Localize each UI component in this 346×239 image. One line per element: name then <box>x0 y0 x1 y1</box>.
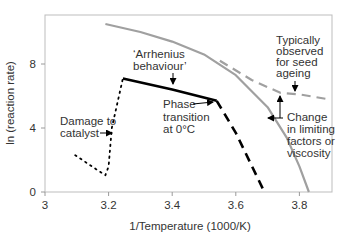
svg-text:Damage tocatalyst: Damage tocatalyst <box>60 115 116 139</box>
y-tick-label: 0 <box>30 186 36 198</box>
x-axis-label: 1/Temperature (1000/K) <box>129 220 251 232</box>
y-tick-label: 4 <box>30 122 37 134</box>
svg-text:Changein limitingfactors orvis: Changein limitingfactors orviscosity <box>287 111 335 159</box>
svg-text:‘Arrheniusbehaviour’: ‘Arrheniusbehaviour’ <box>133 48 187 72</box>
x-tick-label: 3.2 <box>101 199 117 211</box>
series-below-phase-transition <box>217 101 265 192</box>
y-tick-label: 8 <box>30 58 36 70</box>
y-axis-label: ln (reaction rate) <box>4 61 16 145</box>
annotation-phase-transition: Phasetransitionat 0°C <box>163 98 213 135</box>
x-axis-ticks: 33.23.43.63.8 <box>42 192 308 211</box>
annotation-seed-ageing: Typicallyobservedfor seedageing <box>276 34 323 91</box>
x-tick-label: 3 <box>42 199 48 211</box>
annotation-limiting-factors: Changein limitingfactors orviscosity <box>268 96 335 159</box>
annotation-damage-to-catalyst: Damage tocatalyst <box>60 115 116 139</box>
svg-text:Typicallyobservedfor seedagein: Typicallyobservedfor seedageing <box>276 34 323 79</box>
arrhenius-plot: 33.23.43.63.8 048 1/Temperature (1000/K)… <box>0 0 346 239</box>
x-tick-label: 3.4 <box>164 199 181 211</box>
svg-text:Phasetransitionat 0°C: Phasetransitionat 0°C <box>163 98 210 135</box>
y-axis-ticks: 048 <box>30 58 45 198</box>
x-tick-label: 3.8 <box>291 199 307 211</box>
annotation-arrhenius: ‘Arrheniusbehaviour’ <box>133 48 187 84</box>
x-tick-label: 3.6 <box>228 199 244 211</box>
